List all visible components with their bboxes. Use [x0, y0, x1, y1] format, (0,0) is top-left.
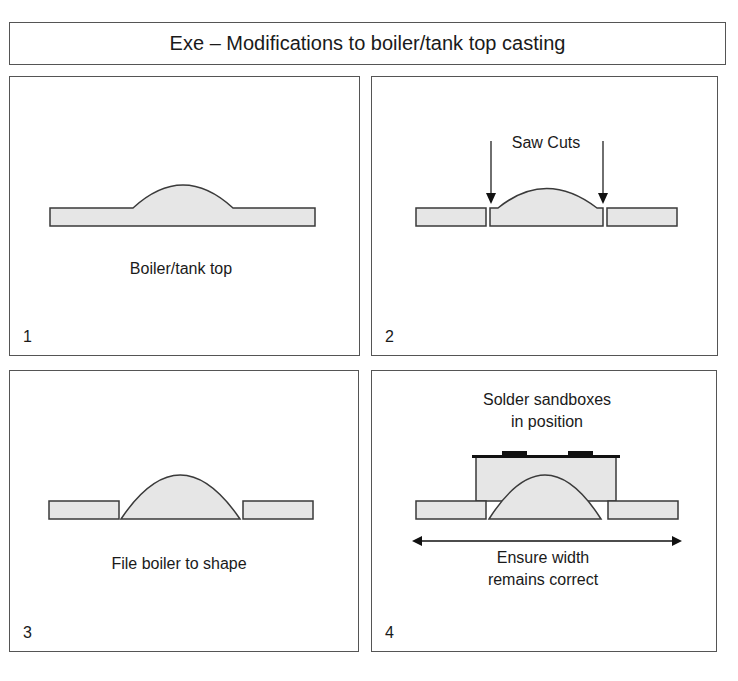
panel-step-1: Boiler/tank top 1	[9, 76, 360, 356]
saw-cuts-drawing	[372, 77, 719, 357]
step-number: 2	[385, 328, 394, 346]
step-number: 3	[23, 624, 32, 642]
diagram-title: Exe – Modifications to boiler/tank top c…	[9, 22, 726, 65]
caption-solder-line1: Solder sandboxes	[483, 389, 611, 411]
step-number: 1	[23, 328, 32, 346]
caption-solder-line2: in position	[483, 411, 611, 433]
filed-boiler-drawing	[10, 371, 360, 653]
caption-width-line2: remains correct	[488, 569, 598, 591]
caption-boiler-tank-top: Boiler/tank top	[130, 258, 232, 280]
panel-step-2: Saw Cuts 2	[371, 76, 718, 356]
panel-step-4: Solder sandboxes in position Ensure widt…	[371, 370, 717, 652]
caption-ensure-width: Ensure width remains correct	[488, 547, 598, 591]
caption-file-boiler: File boiler to shape	[111, 553, 246, 575]
caption-width-line1: Ensure width	[488, 547, 598, 569]
step-number: 4	[385, 624, 394, 642]
panel-step-3: File boiler to shape 3	[9, 370, 359, 652]
boiler-casting-original-drawing	[10, 77, 361, 357]
title-text: Exe – Modifications to boiler/tank top c…	[170, 32, 566, 55]
caption-solder-sandboxes: Solder sandboxes in position	[483, 389, 611, 433]
caption-saw-cuts: Saw Cuts	[512, 132, 580, 154]
